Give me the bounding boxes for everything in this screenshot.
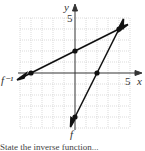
- x-axis-label: x: [137, 76, 142, 87]
- y-tick-5: 5: [67, 13, 73, 24]
- x-tick-5: 5: [125, 76, 131, 87]
- caption: State the inverse function...: [0, 143, 98, 151]
- f-inverse-label: f⁻¹: [1, 75, 13, 86]
- f-label: f: [70, 129, 73, 140]
- f-inverse-line: [17, 25, 128, 81]
